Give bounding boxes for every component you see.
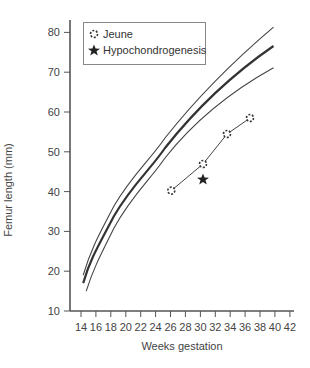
- x-tick-label: 18: [105, 321, 117, 333]
- x-tick-label: 42: [284, 321, 296, 333]
- y-tick-label: 80: [48, 26, 60, 38]
- y-tick-label: 40: [48, 186, 60, 198]
- x-tick-label: 32: [209, 321, 221, 333]
- x-tick-label: 40: [269, 321, 281, 333]
- jeune-data-point: [224, 131, 231, 138]
- x-tick-label: 20: [120, 321, 132, 333]
- y-tick-label: 50: [48, 146, 60, 158]
- jeune-series-line: [171, 118, 250, 191]
- x-tick-label: 30: [194, 321, 206, 333]
- x-tick-label: 16: [90, 321, 102, 333]
- hypochondrogenesis-data-point: [197, 174, 209, 185]
- y-tick-label: 70: [48, 66, 60, 78]
- x-axis-ticks: 14 16 18 20 22 24 26 28 30 32 34 36 38 4…: [75, 311, 296, 333]
- y-tick-label: 30: [48, 225, 60, 237]
- x-tick-label: 36: [239, 321, 251, 333]
- x-axis-title: Weeks gestation: [141, 340, 222, 352]
- legend-jeune-marker-icon: [91, 31, 98, 38]
- y-tick-label: 60: [48, 106, 60, 118]
- x-tick-label: 22: [135, 321, 147, 333]
- y-tick-label: 20: [48, 265, 60, 277]
- y-tick-label: 10: [48, 305, 60, 317]
- x-tick-label: 38: [254, 321, 266, 333]
- jeune-data-point: [200, 161, 207, 168]
- x-tick-label: 34: [224, 321, 236, 333]
- x-tick-label: 26: [164, 321, 176, 333]
- jeune-data-point: [168, 187, 175, 194]
- femur-length-chart: 10 20 30 40 50 60 70 80 14 16 18 20 22 2…: [0, 0, 310, 368]
- legend-hypochondrogenesis-label: Hypochondrogenesis: [103, 44, 207, 56]
- x-tick-label: 14: [75, 321, 87, 333]
- jeune-data-point: [247, 115, 254, 122]
- y-axis-title: Femur length (mm): [2, 143, 14, 237]
- x-tick-label: 28: [179, 321, 191, 333]
- x-tick-label: 24: [149, 321, 161, 333]
- legend: Jeune Hypochondrogenesis: [84, 23, 207, 65]
- lower-reference-curve: [86, 68, 273, 291]
- y-axis-ticks: 10 20 30 40 50 60 70 80: [48, 26, 70, 317]
- legend-jeune-label: Jeune: [103, 28, 133, 40]
- mean-reference-curve: [83, 46, 273, 283]
